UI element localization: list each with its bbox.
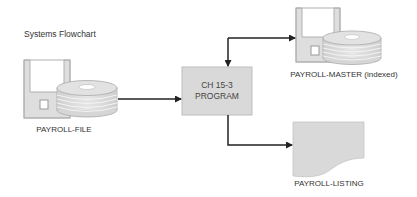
payroll-listing-label: PAYROLL-LISTING bbox=[294, 179, 364, 188]
arrow-program-to-listing bbox=[228, 115, 292, 145]
program-label-line2: PROGRAM bbox=[195, 91, 239, 101]
payroll-file-node: PAYROLL-FILE bbox=[24, 60, 117, 134]
document-icon bbox=[293, 122, 364, 177]
payroll-listing-node: PAYROLL-LISTING bbox=[293, 122, 364, 188]
program-process-node: CH 15-3 PROGRAM bbox=[182, 67, 252, 115]
payroll-file-label: PAYROLL-FILE bbox=[36, 125, 91, 134]
payroll-master-label: PAYROLL-MASTER (indexed) bbox=[290, 70, 398, 79]
flowchart-canvas: PAYROLL-FILE CH 15-3 PROGRAM PAYROLL-MAS… bbox=[0, 0, 417, 197]
disk-stack-icon bbox=[323, 31, 381, 65]
program-label-line1: CH 15-3 bbox=[201, 80, 233, 90]
disk-stack-icon bbox=[57, 81, 117, 118]
payroll-master-node: PAYROLL-MASTER (indexed) bbox=[290, 8, 398, 79]
arrow-program-master-bidirectional bbox=[228, 38, 295, 66]
